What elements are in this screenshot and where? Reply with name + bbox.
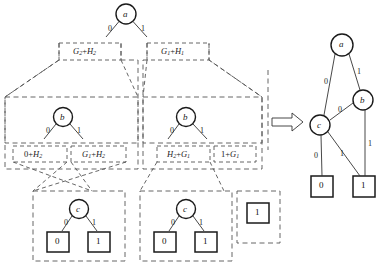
right-c-edge-0-label: 0 (171, 219, 175, 227)
expr-label-H2G1: H2+G1 (167, 150, 190, 159)
expr-label-G1H1: G1+H1 (161, 47, 184, 56)
right-node-b-label: b (183, 113, 188, 122)
left-terminal-1-label: 1 (96, 237, 101, 246)
left-root-edge-0-label: 0 (108, 25, 112, 33)
bdd-edge-a-b-label: 1 (357, 68, 361, 76)
bdd-edge-c-t0 (321, 135, 322, 176)
figure-canvas: .sld{stroke:#333;stroke-width:0.9;fill:n… (0, 0, 382, 277)
right-c-edge-1-label: 1 (199, 219, 203, 227)
expr-sub2: 2 (39, 153, 42, 159)
cross-fan-2 (33, 162, 67, 191)
right-terminal-0-label: 0 (162, 237, 167, 246)
right-b-edge-0-label: 0 (170, 127, 174, 135)
bdd-edge-c-t1 (328, 132, 360, 176)
right-fan-2 (210, 162, 224, 191)
left-b-edge-1-label: 1 (77, 127, 81, 135)
bdd-edge-b-c-label: 0 (338, 106, 342, 114)
bdd-node-c-label: c (317, 121, 321, 130)
left-c-edge-1-label: 1 (92, 219, 96, 227)
left-terminal-0-label: 0 (55, 237, 60, 246)
expr-sub2: 2 (93, 50, 96, 56)
right-fan-1 (140, 162, 157, 191)
left-c-edge-0-label: 0 (64, 219, 68, 227)
expr-label-1G1: 1+G1 (221, 150, 239, 159)
bdd-node-b-label: b (360, 96, 365, 105)
transform-arrow-icon (272, 113, 303, 131)
left-root-node-a-label: a (123, 10, 128, 19)
expr-sub2: 2 (102, 153, 105, 159)
right-node-c-label: c (183, 205, 187, 214)
standalone-terminal-1-label: 1 (255, 208, 260, 217)
bdd-edge-b-t1-label: 1 (368, 140, 372, 148)
expr-sub2: 1 (187, 153, 190, 159)
expr-label-0H2: 0+H2 (24, 150, 42, 159)
fan-line-right-a (143, 60, 147, 97)
expr-sub2: 1 (181, 50, 184, 56)
fan-line-left-b (121, 60, 138, 97)
right-terminal-1-label: 1 (203, 237, 208, 246)
bdd-terminal-1-label: 1 (361, 181, 366, 190)
bdd-edge-a-c-label: 0 (324, 78, 328, 86)
bdd-edge-c-t1-label: 1 (340, 150, 344, 158)
left-node-c-label: c (76, 205, 80, 214)
expr-label-G1H2: G1+H2 (82, 150, 105, 159)
expr-sub2: 1 (236, 153, 239, 159)
cross-fan-1 (13, 162, 92, 191)
bdd-terminal-0-label: 0 (319, 181, 324, 190)
bdd-node-a-label: a (339, 40, 344, 49)
left-b-edge-0-label: 0 (46, 127, 50, 135)
cross-fan-3 (71, 162, 92, 191)
left-root-edge-1-label: 1 (141, 25, 145, 33)
right-b-edge-1-label: 1 (200, 127, 204, 135)
expr-label-G2H2: G2+H2 (73, 47, 96, 56)
left-half-outer-container (5, 43, 138, 143)
left-node-b-label: b (60, 113, 65, 122)
bdd-edge-c-t0-label: 0 (314, 152, 318, 160)
